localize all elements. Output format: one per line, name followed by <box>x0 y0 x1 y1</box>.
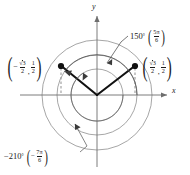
angle-negative-210-radian-fraction: 7π 6 <box>36 149 44 163</box>
y-axis-label: y <box>92 3 96 11</box>
left-terminal-point-dot <box>58 63 64 69</box>
left-paren-close: ) <box>37 57 42 78</box>
right-point-coordinate-label: ( √3 2 , 1 2 ) <box>142 59 172 75</box>
right-y-fraction: 1 2 <box>161 60 165 74</box>
left-x-minus-sign: − <box>13 63 18 71</box>
angle-negative-210-radian-denominator: 6 <box>37 156 41 164</box>
angle-negative-210-radian-sign: − <box>31 153 35 160</box>
angle-negative-210-paren-open: ( <box>27 149 31 164</box>
x-axis-label: x <box>172 87 176 95</box>
angle-150-degrees: 150 <box>130 32 143 41</box>
right-x-denominator: 2 <box>150 67 154 75</box>
right-paren-close: ) <box>167 57 172 78</box>
x-axis-arrow <box>161 92 167 97</box>
right-paren-open: ( <box>143 57 148 78</box>
figure-canvas: y x ( − √3 2 , 1 2 ) ( √3 2 , <box>0 0 190 175</box>
angle-negative-210-paren-close: ) <box>44 149 48 164</box>
left-point-coordinate-label: ( − √3 2 , 1 2 ) <box>7 59 42 75</box>
angle-150-paren-open: ( <box>148 29 152 44</box>
right-coord-comma: , <box>157 68 161 76</box>
angle-150-radian-denominator: 6 <box>154 36 158 44</box>
left-coord-comma: , <box>27 68 31 76</box>
left-x-denominator: 2 <box>20 67 24 75</box>
left-x-fraction: √3 2 <box>19 60 27 74</box>
angle-150-degree-symbol: ° <box>143 34 145 40</box>
angle-negative-210-degree-symbol: ° <box>22 154 24 160</box>
angle-150-radian-fraction: 5π 6 <box>153 29 161 43</box>
angle-150-paren-close: ) <box>161 29 165 44</box>
terminal-ray-left <box>62 67 97 96</box>
right-y-denominator: 2 <box>161 67 165 75</box>
right-x-numerator: 3 <box>153 59 156 66</box>
angle-150-arc <box>65 55 138 95</box>
angle-150-label: 150 ° ( 5π 6 ) <box>130 26 165 43</box>
angle-negative-210-label: − 210 ° ( − 7π 6 ) <box>4 146 48 163</box>
left-paren-open: ( <box>8 57 13 78</box>
left-y-fraction: 1 2 <box>31 60 35 74</box>
left-y-denominator: 2 <box>31 67 35 75</box>
angle-negative-210-arrowhead <box>83 73 88 81</box>
angle-150-leader-line <box>107 36 128 63</box>
right-x-fraction: √3 2 <box>149 60 157 74</box>
right-terminal-point-dot <box>132 63 138 69</box>
left-x-numerator: 3 <box>23 59 26 66</box>
y-axis-arrow <box>94 16 99 22</box>
angle-negative-210-degrees: 210 <box>9 152 22 161</box>
